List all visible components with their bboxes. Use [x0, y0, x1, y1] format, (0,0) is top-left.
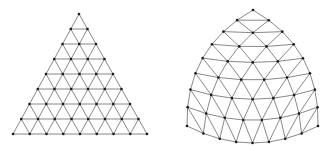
mesh-node: [12, 133, 15, 136]
mesh-node: [112, 133, 115, 136]
mesh-edge: [310, 73, 315, 89]
mesh-edge: [54, 44, 62, 59]
mesh-node: [210, 94, 213, 97]
mesh-edge: [218, 61, 227, 77]
mesh-edge: [280, 114, 299, 118]
mesh-node: [61, 43, 64, 46]
mesh-edge: [223, 32, 252, 33]
mesh-node: [45, 133, 48, 136]
mesh-node: [95, 133, 98, 136]
mesh-edge: [243, 99, 252, 120]
mesh-edge: [63, 59, 71, 74]
mesh-edge: [241, 80, 252, 100]
mesh-edge: [232, 98, 253, 99]
mesh-node: [78, 73, 81, 76]
mesh-edge: [63, 74, 72, 89]
mesh-node: [137, 118, 140, 121]
mesh-edge: [113, 74, 122, 89]
mesh-node: [251, 142, 254, 145]
mesh-edge: [195, 58, 202, 73]
flat-triangle-mesh: [12, 13, 149, 136]
mesh-node: [314, 88, 317, 91]
mesh-node: [202, 132, 205, 135]
mesh-edge: [212, 44, 239, 46]
mesh-node: [103, 58, 106, 61]
mesh-edge: [253, 10, 269, 20]
mesh-edge: [13, 119, 21, 134]
mesh-edge: [105, 89, 114, 104]
mesh-edge: [294, 44, 303, 58]
mesh-node: [293, 94, 296, 97]
mesh-node: [252, 31, 255, 34]
mesh-edge: [97, 89, 105, 104]
mesh-node: [20, 118, 23, 121]
mesh-node: [242, 119, 245, 122]
mesh-node: [267, 19, 270, 22]
mesh-edge: [88, 44, 96, 59]
mesh-edge: [253, 98, 274, 99]
mesh-edge: [273, 95, 294, 98]
mesh-edge: [63, 104, 72, 119]
mesh-node: [53, 58, 56, 61]
mesh-edge: [253, 62, 264, 79]
mesh-edge: [47, 119, 55, 134]
mesh-node: [277, 60, 280, 63]
mesh-node: [240, 78, 243, 81]
mesh-node: [95, 43, 98, 46]
mesh-node: [45, 103, 48, 106]
mesh-node: [53, 118, 56, 121]
mesh-edge: [287, 78, 294, 95]
mesh-node: [265, 45, 268, 48]
mesh-edge: [212, 32, 224, 45]
mesh-edge: [264, 78, 287, 80]
mesh-node: [62, 133, 65, 136]
mesh-edge: [55, 89, 64, 104]
mesh-edge: [46, 89, 54, 104]
mesh-edge: [237, 10, 253, 20]
mesh-node: [211, 43, 214, 46]
mesh-edge: [269, 20, 283, 31]
mesh-node: [62, 103, 65, 106]
mesh-edge: [71, 44, 79, 59]
mesh-node: [186, 125, 189, 128]
mesh-node: [189, 88, 192, 91]
mesh-node: [87, 88, 90, 91]
mesh-edge: [206, 114, 225, 118]
mesh-edge: [218, 78, 232, 99]
mesh-node: [272, 97, 275, 100]
mesh-node: [309, 72, 312, 75]
mesh-edge: [80, 59, 88, 74]
mesh-edge: [38, 119, 47, 134]
mesh-edge: [79, 44, 88, 59]
mesh-node: [78, 103, 81, 106]
mesh-node: [186, 106, 189, 109]
mesh-node: [298, 112, 301, 115]
mesh-edge: [88, 74, 96, 89]
mesh-edge: [79, 29, 87, 44]
curved-triangle-mesh: [186, 9, 320, 145]
mesh-edge: [72, 119, 81, 134]
mesh-edge: [264, 61, 278, 79]
mesh-edge: [228, 46, 240, 61]
mesh-edge: [96, 44, 105, 59]
mesh-node: [70, 118, 73, 121]
mesh-edge: [262, 120, 269, 142]
mesh-edge: [220, 118, 225, 139]
mesh-edge: [79, 14, 88, 29]
mesh-edge: [218, 78, 241, 80]
mesh-node: [45, 73, 48, 76]
mesh-edge: [253, 120, 262, 143]
mesh-edge: [21, 104, 29, 119]
mesh-node: [201, 57, 204, 60]
mesh-edge: [71, 74, 79, 89]
mesh-node: [292, 43, 295, 46]
mesh-node: [78, 13, 81, 16]
mesh-edge: [236, 120, 243, 142]
mesh-node: [268, 141, 271, 144]
mesh-edge: [80, 104, 89, 119]
mesh-node: [120, 118, 123, 121]
mesh-edge: [228, 61, 242, 79]
mesh-node: [223, 117, 226, 120]
mesh-edge: [266, 46, 277, 61]
mesh-figure: [0, 0, 330, 151]
